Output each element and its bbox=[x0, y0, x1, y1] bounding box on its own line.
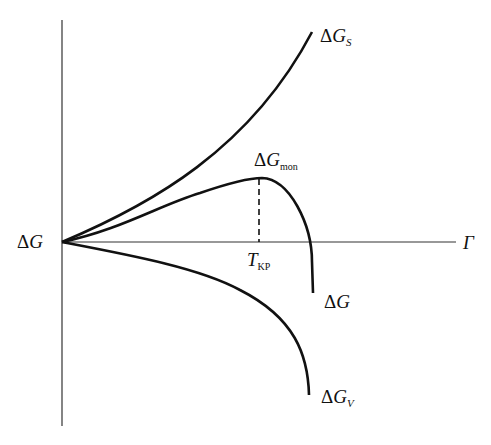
g-symbol: G bbox=[332, 25, 346, 46]
g-symbol: G bbox=[333, 386, 347, 407]
subscript-s: S bbox=[346, 36, 352, 48]
label-t-kp: TKP bbox=[247, 250, 270, 272]
g-symbol: G bbox=[29, 231, 43, 252]
delta-symbol: Δ bbox=[17, 231, 29, 252]
label-horizontal-axis-gamma: Γ bbox=[463, 233, 474, 252]
gamma-symbol: Γ bbox=[463, 232, 474, 253]
curve-delta-g-s bbox=[62, 32, 312, 242]
label-delta-g-mon: ΔGmon bbox=[254, 150, 298, 172]
label-delta-g-v: ΔGV bbox=[321, 387, 354, 409]
subscript-v: V bbox=[347, 397, 354, 409]
g-symbol: G bbox=[266, 149, 280, 170]
label-delta-g-s: ΔGS bbox=[320, 26, 351, 48]
delta-symbol: Δ bbox=[321, 386, 333, 407]
label-delta-g-resulting: ΔG bbox=[324, 292, 350, 311]
delta-symbol: Δ bbox=[320, 25, 332, 46]
label-vertical-axis-delta-g: ΔG bbox=[17, 232, 43, 251]
t-symbol: T bbox=[247, 249, 258, 270]
curve-delta-g-v bbox=[62, 242, 309, 395]
subscript-kp: KP bbox=[258, 261, 271, 272]
g-symbol: G bbox=[336, 291, 350, 312]
subscript-mon: mon bbox=[280, 161, 298, 172]
curve-delta-g-resulting bbox=[62, 178, 313, 293]
delta-symbol: Δ bbox=[324, 291, 336, 312]
delta-symbol: Δ bbox=[254, 149, 266, 170]
diagram-canvas bbox=[0, 0, 491, 445]
